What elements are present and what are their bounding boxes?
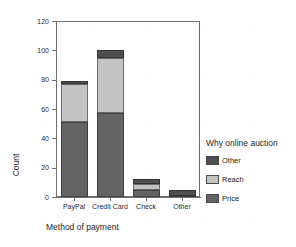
stacked-bar-chart: 120100806040200 PayPalCredit CardCheckOt… (0, 0, 296, 247)
legend-label: Other (222, 156, 241, 165)
legend-swatch-price (206, 194, 219, 203)
bar-check (133, 179, 160, 197)
bar-segment-other (133, 179, 160, 183)
legend-swatch-other (206, 156, 219, 165)
y-tick-mark (52, 50, 56, 51)
y-axis-line (56, 21, 57, 198)
x-axis-title: Method of payment (46, 222, 119, 232)
x-tick-mark (110, 197, 111, 201)
legend-title: Why online auction (206, 138, 296, 148)
bar-segment-reach (133, 184, 160, 190)
y-tick-mark (52, 21, 56, 22)
y-tick-mark (52, 197, 56, 198)
legend-items: OtherReachPrice (206, 155, 296, 203)
legend-item: Reach (206, 174, 296, 184)
legend-item: Price (206, 193, 296, 203)
x-axis-line (56, 197, 201, 198)
bar-segment-reach (61, 84, 88, 122)
x-tick-label: Other (160, 203, 204, 211)
y-tick-mark (52, 109, 56, 110)
y-tick-label: 20 (0, 164, 49, 171)
legend-item: Other (206, 155, 296, 165)
bar-credit-card (97, 50, 124, 197)
bar-segment-price (61, 122, 88, 197)
x-tick-mark (74, 197, 75, 201)
legend-swatch-reach (206, 175, 219, 184)
legend: Why online auction OtherReachPrice (206, 138, 296, 212)
bar-segment-price (97, 113, 124, 197)
bar-segment-reach (97, 58, 124, 114)
bar-segment-other (169, 190, 196, 196)
y-tick-label: 100 (0, 47, 49, 54)
y-tick-label: 120 (0, 18, 49, 25)
bar-segment-price (133, 190, 160, 197)
y-tick-mark (52, 168, 56, 169)
bar-other (169, 190, 196, 197)
bar-segment-other (97, 50, 124, 57)
bar-paypal (61, 81, 88, 197)
y-tick-label: 60 (0, 106, 49, 113)
y-tick-label: 0 (0, 194, 49, 201)
x-tick-mark (182, 197, 183, 201)
bar-segment-other (61, 81, 88, 84)
x-tick-mark (146, 197, 147, 201)
legend-label: Reach (222, 175, 244, 184)
y-tick-label: 80 (0, 76, 49, 83)
y-tick-mark (52, 138, 56, 139)
y-axis-title: Count (11, 135, 21, 195)
y-tick-label: 40 (0, 135, 49, 142)
legend-label: Price (222, 194, 239, 203)
y-tick-mark (52, 80, 56, 81)
